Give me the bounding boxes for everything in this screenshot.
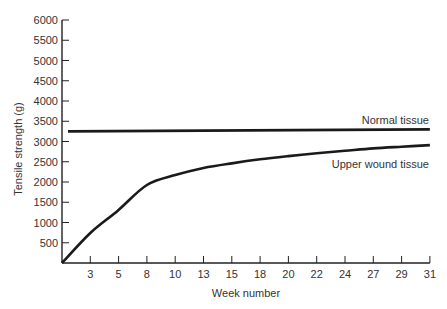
line-normal-tissue [68,129,430,131]
label-upper-wound-tissue: Upper wound tissue [332,158,429,170]
y-axis-title: Tensile strength (g) [12,102,24,196]
y-tick-label: 4000 [34,95,58,107]
x-tick-label: 27 [367,268,379,280]
series-layer [62,129,430,263]
y-tick-label: 3500 [34,115,58,127]
x-axis-title: Week number [212,287,281,299]
y-tick-label: 4500 [34,75,58,87]
x-tick-label: 20 [282,268,294,280]
label-normal-tissue: Normal tissue [362,114,429,126]
x-tick-label: 8 [144,268,150,280]
x-tick-label: 15 [226,268,238,280]
x-tick-label: 29 [395,268,407,280]
x-tick-label: 18 [254,268,266,280]
y-tick-label: 2500 [34,156,58,168]
y-tick-label: 6000 [34,14,58,26]
x-axis: 35810131518202224272931 [62,256,436,280]
y-tick-label: 3000 [34,136,58,148]
x-tick-label: 13 [197,268,209,280]
x-tick-label: 3 [87,268,93,280]
y-tick-label: 2000 [34,176,58,188]
x-tick-label: 22 [311,268,323,280]
y-tick-label: 5000 [34,55,58,67]
chart-canvas: 5001000150020002500300035004000450050005… [0,0,447,309]
y-tick-label: 1000 [34,217,58,229]
y-tick-label: 1500 [34,196,58,208]
x-tick-label: 24 [339,268,351,280]
x-tick-label: 5 [116,268,122,280]
y-tick-label: 500 [40,237,58,249]
x-tick-label: 31 [424,268,436,280]
x-tick-label: 10 [169,268,181,280]
y-tick-label: 5500 [34,34,58,46]
y-axis: 5001000150020002500300035004000450050005… [34,14,69,263]
